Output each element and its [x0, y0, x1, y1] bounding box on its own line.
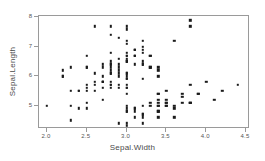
y-axis-title: Sepal.Length — [7, 0, 19, 143]
data-point — [101, 81, 103, 83]
data-point — [46, 104, 48, 106]
data-point — [189, 25, 191, 27]
data-point — [173, 40, 175, 42]
data-point — [70, 119, 72, 121]
data-point — [117, 57, 119, 59]
data-point — [86, 66, 88, 68]
data-point — [141, 122, 143, 124]
data-point — [133, 63, 135, 65]
data-point — [157, 110, 159, 112]
data-point — [133, 107, 135, 109]
data-point — [165, 90, 167, 92]
data-point — [157, 75, 159, 77]
x-tick-mark — [126, 128, 127, 132]
x-tick-mark — [165, 128, 166, 132]
data-point — [125, 122, 127, 124]
x-tick-mark — [46, 128, 47, 132]
data-point — [173, 107, 175, 109]
data-point — [101, 66, 103, 68]
data-point — [165, 98, 167, 100]
data-point — [205, 81, 207, 83]
data-point — [141, 51, 143, 53]
data-point — [141, 40, 143, 42]
data-point — [117, 69, 119, 71]
data-point — [101, 75, 103, 77]
data-point — [157, 69, 159, 71]
data-point — [125, 125, 127, 127]
y-tick-mark — [34, 75, 38, 76]
data-point — [133, 54, 135, 56]
data-point — [157, 104, 159, 106]
data-point — [125, 54, 127, 56]
data-point — [109, 34, 111, 36]
x-tick-label: 4.5 — [241, 133, 250, 139]
y-tick-mark — [34, 46, 38, 47]
x-tick-label: 3.0 — [121, 133, 130, 139]
data-point — [125, 60, 127, 62]
plot-frame — [38, 15, 249, 128]
data-point — [125, 104, 127, 106]
data-point — [109, 25, 111, 27]
x-tick-label: 2.0 — [41, 133, 50, 139]
data-points-layer — [39, 16, 248, 127]
data-point — [173, 116, 175, 118]
data-point — [62, 75, 64, 77]
data-point — [125, 110, 127, 112]
data-point — [157, 93, 159, 95]
data-point — [141, 63, 143, 65]
data-point — [117, 66, 119, 68]
x-tick-label: 2.5 — [81, 133, 90, 139]
data-point — [125, 93, 127, 95]
data-point — [141, 116, 143, 118]
data-point — [125, 25, 127, 27]
data-point — [86, 101, 88, 103]
data-point — [94, 81, 96, 83]
x-tick-mark — [245, 128, 246, 132]
data-point — [141, 78, 143, 80]
data-point — [117, 87, 119, 89]
y-tick-label: 5 — [29, 102, 32, 108]
data-point — [62, 69, 64, 71]
data-point — [189, 101, 191, 103]
data-point — [86, 54, 88, 56]
data-point — [109, 66, 111, 68]
data-point — [125, 28, 127, 30]
data-point — [133, 110, 135, 112]
data-point — [133, 116, 135, 118]
data-point — [109, 72, 111, 74]
data-point — [133, 49, 135, 51]
data-point — [94, 25, 96, 27]
data-point — [78, 107, 80, 109]
data-point — [109, 81, 111, 83]
data-point — [189, 84, 191, 86]
data-point — [237, 84, 239, 86]
data-point — [125, 87, 127, 89]
x-tick-label: 3.5 — [161, 133, 170, 139]
x-tick-mark — [205, 128, 206, 132]
data-point — [86, 107, 88, 109]
data-point — [117, 75, 119, 77]
data-point — [165, 104, 167, 106]
data-point — [181, 101, 183, 103]
data-point — [101, 87, 103, 89]
data-point — [117, 84, 119, 86]
data-point — [94, 84, 96, 86]
y-tick-label: 8 — [29, 13, 32, 19]
data-point — [181, 96, 183, 98]
data-point — [117, 122, 119, 124]
y-tick-label: 7 — [29, 43, 32, 49]
data-point — [125, 84, 127, 86]
x-tick-label: 4.0 — [201, 133, 210, 139]
x-tick-mark — [86, 128, 87, 132]
data-point — [70, 104, 72, 106]
data-point — [70, 90, 72, 92]
data-point — [125, 78, 127, 80]
y-tick-label: 6 — [29, 72, 32, 78]
data-point — [221, 90, 223, 92]
data-point — [86, 90, 88, 92]
data-point — [157, 116, 159, 118]
data-point — [141, 104, 143, 106]
data-point — [94, 72, 96, 74]
data-point — [149, 66, 151, 68]
data-point — [109, 87, 111, 89]
